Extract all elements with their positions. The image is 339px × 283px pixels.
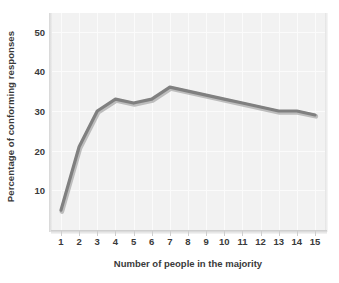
chart-figure: Percentage of conforming responses 10203… <box>0 0 339 283</box>
x-tick-label: 2 <box>76 236 81 247</box>
x-tick-label: 15 <box>310 236 321 247</box>
x-axis-tick-labels: 123456789101112131415 <box>0 0 339 283</box>
x-tick-label: 10 <box>219 236 230 247</box>
x-tick-label: 9 <box>203 236 208 247</box>
x-tick-label: 1 <box>58 236 63 247</box>
x-tick-label: 5 <box>131 236 136 247</box>
x-tick-label: 8 <box>185 236 190 247</box>
x-tick-label: 11 <box>237 236 247 247</box>
x-axis-title: Number of people in the majority <box>51 258 325 269</box>
x-tick-label: 4 <box>113 236 118 247</box>
x-tick-label: 14 <box>292 236 303 247</box>
x-tick-label: 6 <box>149 236 154 247</box>
x-tick-label: 13 <box>273 236 284 247</box>
x-tick-label: 7 <box>167 236 172 247</box>
x-tick-label: 12 <box>255 236 266 247</box>
x-tick-label: 3 <box>95 236 100 247</box>
